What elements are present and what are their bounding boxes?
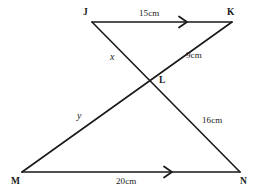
geometry-canvas [0,0,261,192]
length-label-kl: 9cm [186,51,202,60]
vertex-label-n: N [240,177,247,187]
vertex-label-l: L [159,76,166,86]
length-label-mn: 20cm [116,177,136,186]
variable-label-x: x [110,52,114,62]
direction-arrows-group [164,17,187,178]
segment-km [22,22,232,172]
length-label-ln: 16cm [202,116,222,125]
vertex-label-m: M [11,177,20,187]
variable-label-y: y [77,111,81,121]
geometry-figure: J K L M N 15cm 9cm 16cm 20cm x y [0,0,261,192]
vertex-label-k: K [227,8,235,18]
length-label-jk: 15cm [139,9,159,18]
segment-jn [92,22,240,172]
segments-group [22,22,240,172]
vertex-label-j: J [83,8,88,18]
